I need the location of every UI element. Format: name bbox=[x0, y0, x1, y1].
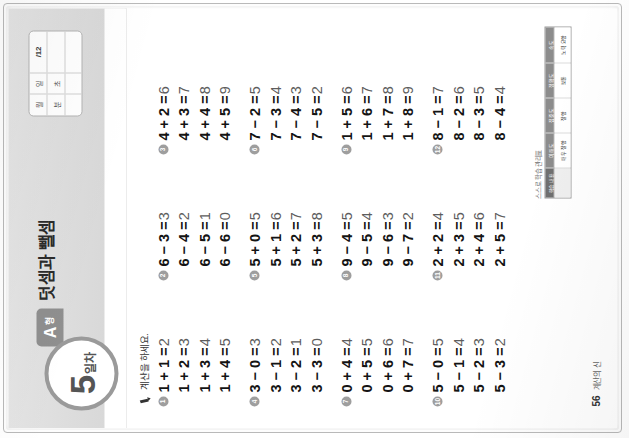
problem-number-spacer bbox=[382, 144, 392, 154]
problem-answer[interactable]: 5 bbox=[246, 86, 262, 94]
problem-expression: 1 + 3 = bbox=[196, 347, 212, 392]
selfcheck-table: 학습 내용 이해도매우 잘함집중도잘함정확도보통속도노력 요함 bbox=[544, 26, 571, 198]
problem-number-spacer bbox=[290, 270, 300, 280]
problem-answer[interactable]: 5 bbox=[338, 212, 354, 220]
problem-answer[interactable]: 6 bbox=[450, 86, 466, 94]
problem-answer[interactable]: 4 bbox=[429, 212, 445, 220]
problem-expression: 5 + 2 = bbox=[287, 221, 303, 266]
problem-answer[interactable]: 5 bbox=[450, 212, 466, 220]
problem-answer[interactable]: 7 bbox=[358, 86, 374, 94]
problem-line: 7 − 3 =4 bbox=[266, 28, 283, 154]
problem-answer[interactable]: 3 bbox=[379, 212, 395, 220]
problem-expression: 1 + 6 = bbox=[358, 95, 374, 140]
problem-answer[interactable]: 5 bbox=[246, 212, 262, 220]
problem-answer[interactable]: 3 bbox=[246, 338, 262, 346]
problem-line: 1 + 2 =3 bbox=[175, 280, 192, 406]
problem-number-spacer bbox=[178, 144, 188, 154]
problem-answer[interactable]: 7 bbox=[491, 212, 507, 220]
problem-answer[interactable]: 8 bbox=[308, 212, 324, 220]
problem-answer[interactable]: 2 bbox=[175, 212, 191, 220]
day-badge-inner: 5 일차 bbox=[64, 352, 99, 393]
selfcheck-column-head: 정확도 bbox=[545, 63, 554, 97]
problem-block-9: 91 + 5 =61 + 6 =71 + 7 =81 + 8 =9 bbox=[337, 28, 416, 154]
problem-answer[interactable]: 7 bbox=[399, 338, 415, 346]
problem-answer[interactable]: 5 bbox=[216, 338, 232, 346]
problem-answer[interactable]: 7 bbox=[429, 86, 445, 94]
pencil-icon bbox=[136, 391, 150, 405]
problem-block-2: 26 − 3 =36 − 4 =26 − 5 =16 − 6 =0 bbox=[154, 154, 233, 280]
problem-number-spacer bbox=[402, 270, 412, 280]
selfcheck-column-cell[interactable]: 보통 bbox=[554, 63, 570, 97]
problem-answer[interactable]: 4 bbox=[491, 86, 507, 94]
problem-expression: 5 + 0 = bbox=[246, 221, 262, 266]
problem-answer[interactable]: 6 bbox=[267, 212, 283, 220]
problem-number-spacer bbox=[494, 396, 504, 406]
problem-answer[interactable]: 8 bbox=[196, 86, 212, 94]
problem-answer[interactable]: 1 bbox=[196, 212, 212, 220]
problem-answer[interactable]: 6 bbox=[470, 212, 486, 220]
problem-answer[interactable]: 3 bbox=[287, 86, 303, 94]
problem-block-10: 105 − 0 =55 − 1 =45 − 2 =35 − 3 =2 bbox=[429, 280, 508, 406]
problem-answer[interactable]: 4 bbox=[338, 338, 354, 346]
problem-line: 5 + 3 =8 bbox=[307, 154, 324, 280]
problem-expression: 5 + 1 = bbox=[267, 221, 283, 266]
problem-answer[interactable]: 2 bbox=[155, 338, 171, 346]
problem-answer[interactable]: 6 bbox=[379, 338, 395, 346]
page-number: 56 bbox=[590, 395, 601, 406]
problem-expression: 5 − 0 = bbox=[429, 347, 445, 392]
problem-number-spacer bbox=[270, 396, 280, 406]
problem-line: 6 − 4 =2 bbox=[175, 154, 192, 280]
problem-answer[interactable]: 1 bbox=[287, 338, 303, 346]
problem-answer[interactable]: 0 bbox=[308, 338, 324, 346]
selfcheck-column-cell[interactable]: 노력 요함 bbox=[554, 27, 570, 62]
problem-answer[interactable]: 5 bbox=[429, 338, 445, 346]
problem-answer[interactable]: 8 bbox=[379, 86, 395, 94]
problem-answer[interactable]: 4 bbox=[450, 338, 466, 346]
problem-expression: 7 − 2 = bbox=[246, 95, 262, 140]
selfcheck-column-cell[interactable]: 잘함 bbox=[554, 98, 570, 132]
problem-answer[interactable]: 3 bbox=[175, 338, 191, 346]
type-tab: A 형 bbox=[36, 308, 63, 346]
record-blank-cell bbox=[47, 31, 64, 72]
problem-answer[interactable]: 6 bbox=[155, 86, 171, 94]
problem-answer[interactable]: 4 bbox=[358, 212, 374, 220]
problem-answer[interactable]: 2 bbox=[267, 338, 283, 346]
problem-answer[interactable]: 9 bbox=[399, 86, 415, 94]
problem-line: 0 + 6 =6 bbox=[378, 280, 395, 406]
problem-answer[interactable]: 5 bbox=[470, 86, 486, 94]
record-blank-c bbox=[65, 31, 82, 72]
selfcheck-label-head: 학습 내용 bbox=[545, 168, 554, 197]
problem-line: 11 + 1 =2 bbox=[154, 280, 171, 406]
record-blank-b bbox=[65, 72, 82, 94]
selfcheck-column-2: 집중도잘함 bbox=[545, 97, 570, 132]
problem-number-spacer bbox=[382, 396, 392, 406]
problem-number-spacer bbox=[290, 396, 300, 406]
problem-number-badge: 5 bbox=[249, 270, 259, 280]
problem-answer[interactable]: 5 bbox=[358, 338, 374, 346]
problem-answer[interactable]: 7 bbox=[287, 212, 303, 220]
problem-expression: 9 − 7 = bbox=[399, 221, 415, 266]
problem-answer[interactable]: 4 bbox=[267, 86, 283, 94]
problem-answer[interactable]: 2 bbox=[399, 212, 415, 220]
problem-number-spacer bbox=[473, 270, 483, 280]
problem-answer[interactable]: 2 bbox=[491, 338, 507, 346]
workbook-page: 5 일차 A 형 덧셈과 뺄셈 월 일 /12 분 초 bbox=[8, 8, 617, 428]
problem-answer[interactable]: 7 bbox=[175, 86, 191, 94]
problem-answer[interactable]: 3 bbox=[470, 338, 486, 346]
problem-answer[interactable]: 4 bbox=[196, 338, 212, 346]
selfcheck-column-cell[interactable]: 매우 잘함 bbox=[554, 133, 570, 167]
record-minute-label: 분 bbox=[47, 94, 64, 116]
problem-line: 91 + 5 =6 bbox=[337, 28, 354, 154]
problem-expression: 0 + 5 = bbox=[358, 347, 374, 392]
problem-number-spacer bbox=[270, 270, 280, 280]
problem-expression: 6 − 3 = bbox=[155, 221, 171, 266]
problem-expression: 4 + 2 = bbox=[155, 95, 171, 140]
record-score-value: /12 bbox=[33, 46, 42, 56]
selfcheck-label-cell bbox=[554, 168, 570, 197]
problem-answer[interactable]: 6 bbox=[338, 86, 354, 94]
problem-answer[interactable]: 9 bbox=[216, 86, 232, 94]
problem-line: 3 − 1 =2 bbox=[266, 280, 283, 406]
problem-answer[interactable]: 0 bbox=[216, 212, 232, 220]
problem-answer[interactable]: 3 bbox=[155, 212, 171, 220]
problem-answer[interactable]: 2 bbox=[308, 86, 324, 94]
